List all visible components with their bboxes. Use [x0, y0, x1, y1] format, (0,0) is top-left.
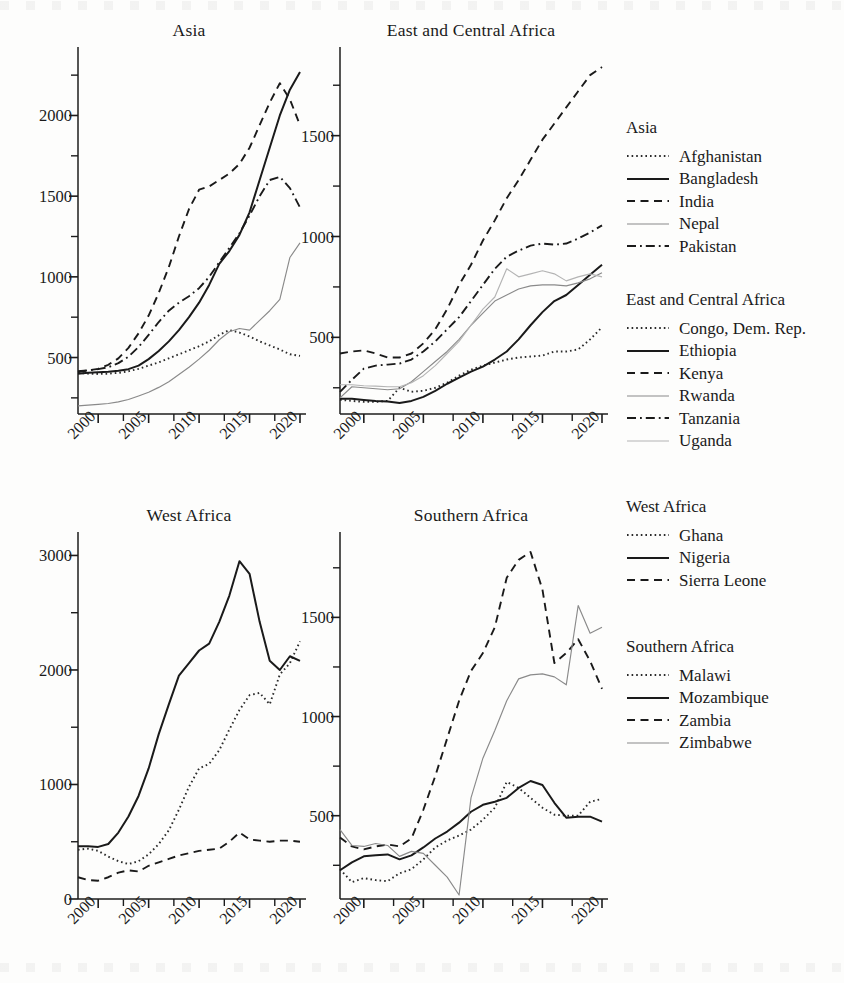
legend-item-bangladesh[interactable]: Bangladesh — [626, 168, 844, 191]
series-line-zambia — [340, 552, 602, 849]
y-tick-label: 1000 — [301, 708, 334, 727]
legend-item-label: Malawi — [679, 667, 731, 684]
legend-line-swatch-icon — [626, 173, 670, 185]
legend-item-label: Rwanda — [679, 387, 735, 404]
legend-item-pakistan[interactable]: Pakistan — [626, 235, 844, 258]
legend-line-swatch-icon — [626, 390, 670, 402]
legend-line-swatch-icon — [626, 714, 670, 726]
legend-item-zambia[interactable]: Zambia — [626, 709, 844, 732]
legend-line-swatch-icon — [626, 345, 670, 357]
legend-item-uganda[interactable]: Uganda — [626, 430, 844, 453]
legend-item-label: Pakistan — [679, 238, 737, 255]
legend-group-west-africa: West AfricaGhanaNigeriaSierra Leone — [626, 497, 844, 592]
legend-item-malawi[interactable]: Malawi — [626, 664, 844, 687]
legend-item-label: Afghanistan — [679, 148, 762, 165]
legend-item-sierra-leone[interactable]: Sierra Leone — [626, 569, 844, 592]
legend-item-label: Kenya — [679, 365, 723, 382]
legend-item-india[interactable]: India — [626, 190, 844, 213]
legend-group-title: West Africa — [626, 497, 844, 517]
legend-line-swatch-icon — [626, 737, 670, 749]
legend-item-kenya[interactable]: Kenya — [626, 362, 844, 385]
series-line-mozambique — [340, 781, 602, 870]
legend-item-label: Nigeria — [679, 549, 730, 566]
legend-item-label: Sierra Leone — [679, 572, 766, 589]
legend-line-swatch-icon — [626, 574, 670, 586]
legend-line-swatch-icon — [626, 692, 670, 704]
legend-line-swatch-icon — [626, 322, 670, 334]
legend-group-title: Southern Africa — [626, 637, 844, 657]
legend-group-asia: AsiaAfghanistanBangladeshIndiaNepalPakis… — [626, 118, 844, 258]
legend-group-southern-africa: Southern AfricaMalawiMozambiqueZambiaZim… — [626, 637, 844, 754]
legend-item-label: Congo, Dem. Rep. — [679, 320, 806, 337]
legend-item-mozambique[interactable]: Mozambique — [626, 687, 844, 710]
legend-item-afghanistan[interactable]: Afghanistan — [626, 145, 844, 168]
legend-line-swatch-icon — [626, 412, 670, 424]
legend-line-swatch-icon — [626, 195, 670, 207]
legend-item-tanzania[interactable]: Tanzania — [626, 407, 844, 430]
legend-line-swatch-icon — [626, 240, 670, 252]
legend-item-label: Uganda — [679, 432, 732, 449]
legend-item-label: Bangladesh — [679, 170, 758, 187]
legend-group-title: East and Central Africa — [626, 290, 844, 310]
y-tick-label: 500 — [309, 807, 334, 826]
y-tick-label: 1500 — [301, 608, 334, 627]
legend-item-congo-dem-rep[interactable]: Congo, Dem. Rep. — [626, 317, 844, 340]
legend-item-label: Ghana — [679, 527, 723, 544]
legend-line-swatch-icon — [626, 435, 670, 447]
legend-item-nepal[interactable]: Nepal — [626, 213, 844, 236]
legend-item-label: Zimbabwe — [679, 734, 752, 751]
legend-item-rwanda[interactable]: Rwanda — [626, 385, 844, 408]
legend-item-label: Zambia — [679, 712, 731, 729]
legend-item-nigeria[interactable]: Nigeria — [626, 547, 844, 570]
legend-line-swatch-icon — [626, 552, 670, 564]
legend-item-label: Ethiopia — [679, 342, 737, 359]
legend-item-label: Nepal — [679, 215, 720, 232]
legend-item-label: India — [679, 193, 714, 210]
legend-line-swatch-icon — [626, 669, 670, 681]
legend-item-ethiopia[interactable]: Ethiopia — [626, 340, 844, 363]
legend-item-label: Tanzania — [679, 410, 740, 427]
legend-line-swatch-icon — [626, 367, 670, 379]
series-line-zimbabwe — [340, 605, 602, 895]
legend-item-label: Mozambique — [679, 689, 769, 706]
legend-item-ghana[interactable]: Ghana — [626, 524, 844, 547]
legend-group-title: Asia — [626, 118, 844, 138]
legend-line-swatch-icon — [626, 529, 670, 541]
legend-line-swatch-icon — [626, 218, 670, 230]
legend-group-east-and-central-africa: East and Central AfricaCongo, Dem. Rep.E… — [626, 290, 844, 452]
legend-line-swatch-icon — [626, 150, 670, 162]
legend-item-zimbabwe[interactable]: Zimbabwe — [626, 732, 844, 755]
